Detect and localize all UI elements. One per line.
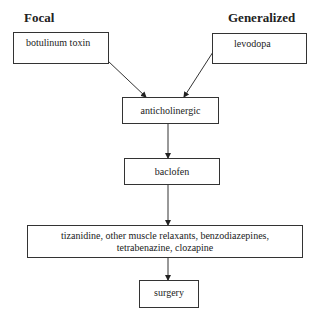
node-label-line1: tizanidine, other muscle relaxants, benz… (28, 230, 302, 242)
node-label-line2: tetrabenazine, clozapine (28, 242, 302, 254)
node-label: baclofen (125, 166, 219, 178)
node-other-drugs: tizanidine, other muscle relaxants, benz… (27, 225, 303, 258)
node-baclofen: baclofen (124, 158, 220, 185)
node-levodopa: levodopa (212, 33, 307, 64)
node-anticholinergic: anticholinergic (122, 97, 219, 124)
node-surgery: surgery (139, 280, 199, 308)
node-label: levodopa (234, 38, 306, 50)
node-label: botulinum toxin (26, 37, 108, 49)
arrow-levodopa-to-anticholinergic (184, 52, 213, 97)
node-botulinum-toxin: botulinum toxin (13, 32, 109, 64)
arrow-botulinum-to-anticholinergic (108, 61, 146, 97)
node-label: surgery (140, 287, 198, 299)
node-label: anticholinergic (123, 105, 218, 117)
